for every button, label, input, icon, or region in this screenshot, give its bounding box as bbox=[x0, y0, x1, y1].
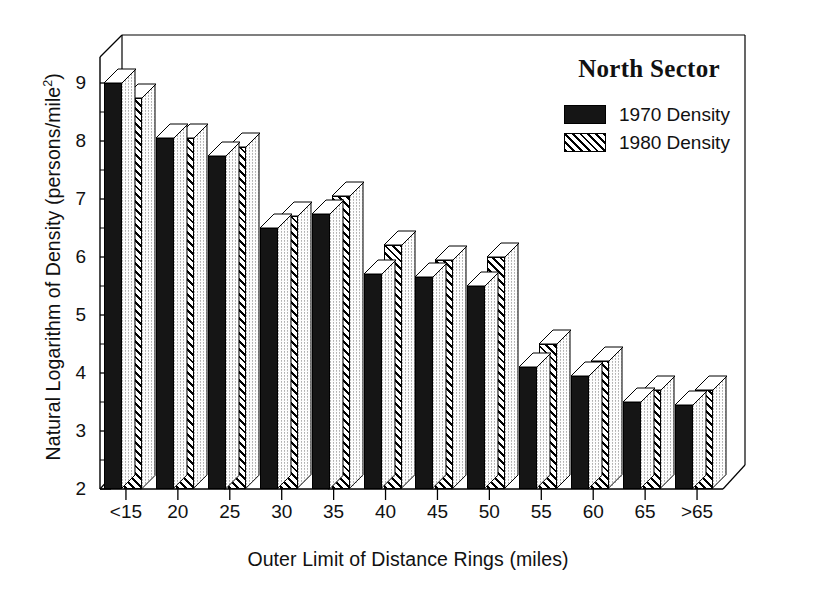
bar-side-face bbox=[193, 124, 209, 491]
legend-entry-1980: 1980 Density bbox=[524, 133, 774, 152]
bar-side-face bbox=[297, 202, 313, 491]
bar-side-face bbox=[432, 263, 448, 491]
bar-1970-40 bbox=[364, 274, 382, 489]
bar-side-face bbox=[121, 69, 137, 491]
bar-front-face bbox=[415, 277, 433, 489]
bar-side-face bbox=[329, 200, 345, 492]
bar-side-face bbox=[245, 133, 261, 491]
legend-title: North Sector bbox=[524, 55, 774, 83]
legend-swatch-solid bbox=[564, 105, 606, 124]
bar-front-face bbox=[519, 367, 537, 489]
bar-1970-20 bbox=[156, 138, 174, 489]
x-axis-title: Outer Limit of Distance Rings (miles) bbox=[0, 548, 816, 571]
bar-front-face bbox=[623, 402, 641, 489]
bar-1970->65 bbox=[675, 405, 693, 489]
bar-side-face bbox=[277, 214, 293, 491]
legend: North Sector 1970 Density1980 Density bbox=[524, 55, 774, 161]
bar-front-face bbox=[312, 214, 330, 490]
bar-side-face bbox=[381, 260, 397, 491]
bar-front-face bbox=[208, 156, 226, 490]
bar-1970-35 bbox=[312, 214, 330, 490]
bar-side-face bbox=[504, 243, 520, 491]
bar-front-face bbox=[156, 138, 174, 489]
bar-side-face bbox=[660, 376, 676, 491]
bar-front-face bbox=[571, 376, 589, 489]
bar-1970-25 bbox=[208, 156, 226, 490]
bar-1970-<15 bbox=[104, 83, 122, 489]
y-axis-title-suffix: ) bbox=[42, 73, 64, 80]
bar-1970-65 bbox=[623, 402, 641, 489]
bar-side-face bbox=[141, 84, 157, 492]
y-axis-title-exponent: 2 bbox=[41, 80, 55, 87]
bar-side-face bbox=[588, 362, 604, 491]
legend-swatch-hatched bbox=[564, 133, 606, 152]
bar-front-face bbox=[104, 83, 122, 489]
bar-1970-55 bbox=[519, 367, 537, 489]
legend-entry-1970: 1970 Density bbox=[524, 105, 774, 124]
bar-front-face bbox=[364, 274, 382, 489]
bar-1970-50 bbox=[467, 286, 485, 489]
y-axis-title: Natural Logarithm of Density (persons/mi… bbox=[41, 32, 65, 502]
bar-1970-45 bbox=[415, 277, 433, 489]
legend-label-1970: 1970 Density bbox=[619, 105, 730, 124]
bar-side-face bbox=[452, 246, 468, 491]
x-tick-label-11: >65 bbox=[667, 502, 727, 521]
legend-label-1980: 1980 Density bbox=[619, 133, 730, 152]
chart-figure: 23456789 <1520253035404550556065>65 Natu… bbox=[0, 0, 816, 591]
bar-side-face bbox=[484, 272, 500, 491]
bar-side-face bbox=[608, 347, 624, 491]
bar-front-face bbox=[260, 228, 278, 489]
bar-side-face bbox=[401, 231, 417, 491]
bar-side-face bbox=[349, 182, 365, 491]
bar-front-face bbox=[675, 405, 693, 489]
bar-1970-30 bbox=[260, 228, 278, 489]
y-axis-title-text: Natural Logarithm of Density (persons/mi… bbox=[42, 87, 64, 461]
bar-side-face bbox=[536, 353, 552, 491]
bar-side-face bbox=[556, 330, 572, 491]
bar-side-face bbox=[712, 376, 728, 491]
bar-side-face bbox=[225, 142, 241, 492]
bar-1970-60 bbox=[571, 376, 589, 489]
legend-entries: 1970 Density1980 Density bbox=[524, 105, 774, 152]
bar-front-face bbox=[467, 286, 485, 489]
bar-side-face bbox=[173, 124, 189, 491]
